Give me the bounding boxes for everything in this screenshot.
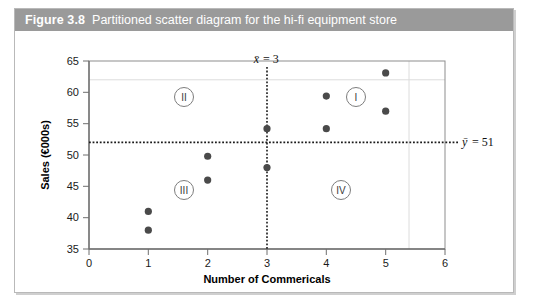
y-tick-label-65: 65: [67, 55, 79, 67]
figure-number: Figure 3.8: [25, 13, 85, 27]
y-axis-ticks: [83, 61, 89, 249]
quadrant-1-label: I: [355, 92, 358, 103]
data-point: [204, 153, 211, 160]
y-tick-label-45: 45: [67, 180, 79, 192]
x-tick-label-4: 4: [323, 257, 329, 269]
y-tick-label-60: 60: [67, 86, 79, 98]
y-tick-label-40: 40: [67, 211, 79, 223]
y-tick-label-55: 55: [67, 117, 79, 129]
quadrant-2-label: II: [181, 92, 187, 103]
data-point: [323, 125, 330, 132]
x-tick-label-2: 2: [205, 257, 211, 269]
x-tick-label-3: 3: [264, 257, 270, 269]
y-mean-symbol: ȳ: [461, 135, 468, 149]
data-point: [323, 92, 330, 99]
x-tick-label-6: 6: [442, 257, 448, 269]
y-mean-value: = 51: [472, 135, 494, 149]
figure-caption-bar: Figure 3.8 Partitioned scatter diagram f…: [15, 9, 513, 31]
y-axis-title: Sales (€000s): [39, 120, 51, 190]
data-point: [382, 108, 389, 115]
data-point: [145, 227, 152, 234]
scatter-plot: 35 40 45 50 55 60 65 0 1 2 3 4 5: [15, 31, 513, 294]
scatter-plot-svg: 35 40 45 50 55 60 65 0 1 2 3 4 5: [15, 31, 515, 294]
y-mean-label: ȳ = 51: [461, 135, 494, 149]
x-mean-label: x̄ = 3: [253, 52, 279, 66]
figure-caption-text: Partitioned scatter diagram for the hi-f…: [92, 13, 397, 27]
x-mean-value: = 3: [263, 52, 279, 66]
x-tick-label-5: 5: [383, 257, 389, 269]
data-point: [382, 69, 389, 76]
x-axis-title: Number of Commericals: [203, 273, 330, 285]
x-mean-symbol: x̄: [253, 52, 260, 66]
quadrant-4-label: IV: [336, 185, 346, 196]
x-tick-label-1: 1: [145, 257, 151, 269]
figure-frame: Figure 3.8 Partitioned scatter diagram f…: [14, 8, 514, 293]
data-point: [204, 176, 211, 183]
quadrant-3-label: III: [180, 185, 188, 196]
data-point: [263, 125, 270, 132]
x-tick-label-0: 0: [86, 257, 92, 269]
x-axis-ticks: [89, 249, 445, 255]
data-point: [145, 208, 152, 215]
y-tick-label-35: 35: [67, 243, 79, 255]
data-point: [263, 164, 270, 171]
y-tick-label-50: 50: [67, 149, 79, 161]
